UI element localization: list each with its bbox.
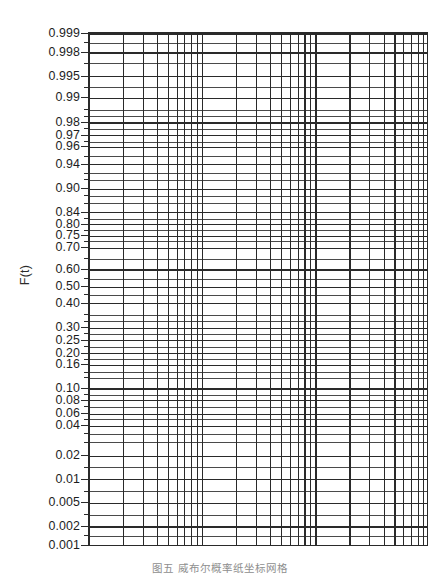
y-axis-tick-label: 0.002 <box>48 520 80 532</box>
y-axis-tick-label: 0.999 <box>48 27 80 39</box>
y-axis-tick-label: 0.60 <box>55 263 80 275</box>
y-axis-tick-label: 0.16 <box>55 358 80 370</box>
y-axis-tick-label: 0.25 <box>55 334 80 346</box>
y-axis-tick-label: 0.99 <box>55 91 80 103</box>
y-axis-tick-label: 0.94 <box>55 158 80 170</box>
y-axis-tick-label: 0.40 <box>55 296 80 308</box>
y-axis-tick-label: 0.30 <box>55 321 80 333</box>
y-axis-tick-label: 0.08 <box>55 394 80 406</box>
y-axis-tick-label: 0.50 <box>55 280 80 292</box>
y-axis-tick-label: 0.70 <box>55 241 80 253</box>
y-axis-tick-label: 0.998 <box>48 46 80 58</box>
y-axis-tick-label: 0.04 <box>55 419 80 431</box>
y-axis-tick-label: 0.98 <box>55 116 80 128</box>
y-axis-tick-label-group: 0.9990.9980.9950.990.980.970.960.940.900… <box>0 0 85 573</box>
y-axis-tick-label: 0.001 <box>48 539 80 551</box>
y-axis-tick-label: 0.90 <box>55 182 80 194</box>
y-axis-tick-label: 0.995 <box>48 69 80 81</box>
y-axis-tick-label: 0.96 <box>55 140 80 152</box>
y-axis-tick-label: 0.02 <box>55 449 80 461</box>
y-axis-tick-label: 0.01 <box>55 473 80 485</box>
figure-caption: 图五 威布尔概率纸坐标网格 <box>0 560 440 575</box>
grid-lines <box>89 33 428 546</box>
y-axis-tick-label: 0.005 <box>48 496 80 508</box>
plot-area <box>88 32 428 546</box>
